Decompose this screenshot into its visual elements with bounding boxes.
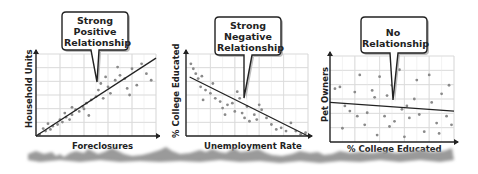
callout-positive: Strong Positive Relationship [64, 15, 126, 48]
callout-none: No Relationship [362, 27, 424, 49]
callout-line-2: Positive [64, 26, 126, 37]
trend-line [190, 77, 308, 136]
y-arrow-icon [327, 51, 333, 56]
callout-line-1: Strong [217, 20, 279, 31]
callout-negative: Strong Negative Relationship [217, 20, 279, 53]
torn-paper-edge [0, 140, 478, 174]
y-axis-label: % College Educated [171, 43, 181, 138]
callout-line-2: Negative [217, 31, 279, 42]
callout-line-3: Relationship [64, 37, 126, 48]
y-axis-label: Household Units [24, 49, 34, 128]
callout-line-2: Relationship [362, 38, 424, 49]
y-axis-label: Pet Owners [320, 67, 330, 122]
y-arrow-icon [183, 49, 189, 54]
callout-line-1: No [362, 27, 424, 38]
x-arrow-icon [308, 133, 313, 139]
callout-line-3: Relationship [217, 42, 279, 53]
callout-line-1: Strong [64, 15, 126, 26]
